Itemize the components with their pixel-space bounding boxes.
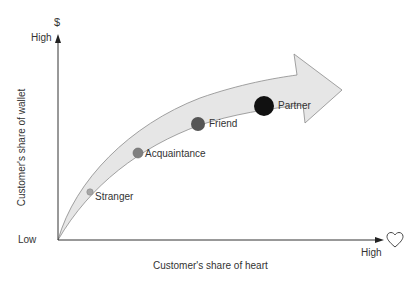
x-axis-low-label: Low bbox=[18, 234, 36, 245]
x-axis-title: Customer's share of heart bbox=[153, 260, 268, 271]
x-axis-arrowhead bbox=[375, 237, 384, 243]
point-label-friend: Friend bbox=[209, 118, 237, 129]
y-axis-high-label: High bbox=[31, 32, 52, 43]
y-axis-arrowhead bbox=[55, 34, 61, 43]
y-axis-title: Customer's share of wallet bbox=[16, 83, 27, 213]
point-label-acquaintance: Acquaintance bbox=[145, 148, 206, 159]
diagram-canvas bbox=[0, 0, 416, 283]
point-label-stranger: Stranger bbox=[95, 191, 133, 202]
point-friend bbox=[191, 117, 205, 131]
point-label-partner: Partner bbox=[278, 100, 311, 111]
point-acquaintance bbox=[133, 148, 143, 158]
x-axis-high-label: High bbox=[361, 247, 382, 258]
point-partner bbox=[254, 96, 274, 116]
growth-arrow bbox=[58, 54, 342, 240]
heart-icon bbox=[387, 233, 403, 248]
point-stranger bbox=[87, 189, 93, 195]
y-axis-symbol: $ bbox=[54, 16, 60, 28]
